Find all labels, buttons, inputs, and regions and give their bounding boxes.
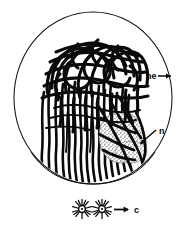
label-c-arrow-icon xyxy=(114,207,129,213)
label-c-text: c xyxy=(134,205,139,215)
centriole-asters xyxy=(73,200,112,219)
nucleus-diagram-canvas: ne n c xyxy=(0,0,190,226)
nucleus-diagram-figure: ne n c xyxy=(0,0,190,226)
centriole-aster-1 xyxy=(73,200,92,219)
label-n-text: n xyxy=(159,126,165,136)
label-ne-group: ne xyxy=(146,71,171,81)
centriole-aster-2 xyxy=(93,200,112,219)
label-c-group: c xyxy=(114,205,139,215)
label-ne-text: ne xyxy=(146,71,157,81)
